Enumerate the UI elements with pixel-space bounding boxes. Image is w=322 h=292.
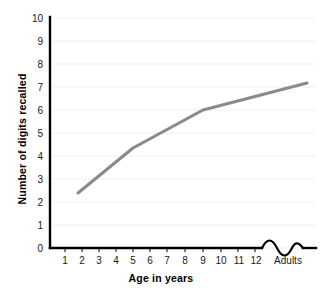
y-tick-2: 2 xyxy=(37,197,43,208)
x-tick-6: 6 xyxy=(147,255,153,266)
x-axis-tick-labels: 1 2 3 4 5 6 7 8 9 10 11 12 Adults xyxy=(62,255,302,266)
y-tick-10: 10 xyxy=(32,13,44,24)
x-tick-10: 10 xyxy=(215,255,227,266)
x-tick-7: 7 xyxy=(164,255,170,266)
x-tick-5: 5 xyxy=(130,255,136,266)
y-tick-9: 9 xyxy=(37,36,43,47)
y-tick-0: 0 xyxy=(37,243,43,254)
y-tick-8: 8 xyxy=(37,59,43,70)
y-tick-5: 5 xyxy=(37,128,43,139)
digit-span-line-chart: Number of digits recalled 0 1 2 3 4 5 6 … xyxy=(0,0,322,292)
x-tick-3: 3 xyxy=(96,255,102,266)
y-tick-6: 6 xyxy=(37,105,43,116)
x-tick-11: 11 xyxy=(234,255,245,266)
x-tick-1: 1 xyxy=(62,255,68,266)
x-tick-adults: Adults xyxy=(274,255,302,266)
x-tick-2: 2 xyxy=(79,255,85,266)
y-axis-tick-labels: 0 1 2 3 4 5 6 7 8 9 10 xyxy=(32,13,44,254)
x-axis-title: Age in years xyxy=(0,272,322,284)
x-tick-4: 4 xyxy=(113,255,119,266)
data-series-digits-recalled xyxy=(78,83,307,193)
chart-plot-area: 0 1 2 3 4 5 6 7 8 9 10 xyxy=(0,0,322,292)
y-tick-7: 7 xyxy=(37,82,43,93)
x-tick-8: 8 xyxy=(182,255,188,266)
x-tick-9: 9 xyxy=(200,255,206,266)
y-tick-4: 4 xyxy=(37,151,43,162)
y-tick-1: 1 xyxy=(37,220,43,231)
x-tick-12: 12 xyxy=(250,255,262,266)
gridlines xyxy=(49,18,316,248)
y-tick-3: 3 xyxy=(37,174,43,185)
